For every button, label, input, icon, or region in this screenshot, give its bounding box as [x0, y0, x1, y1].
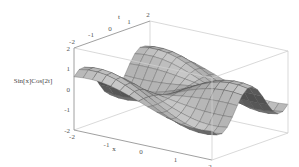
surface-plot: -2-1012-2-1012-2-1012 x t Sin[x]Cos[2t] — [0, 0, 299, 167]
box-edge — [74, 130, 212, 160]
z-tick-label: -1 — [64, 106, 70, 114]
t-tick-label: -2 — [69, 38, 75, 46]
z-tick-label: 2 — [67, 45, 71, 53]
x-tick-label: 0 — [139, 148, 143, 156]
z-tick-label: 0 — [67, 86, 71, 94]
t-tick-label: 0 — [108, 25, 112, 33]
z-tick-label: -2 — [64, 127, 70, 135]
t-tick-label: 2 — [146, 11, 150, 19]
t-axis-label: t — [118, 13, 120, 21]
z-tick-label: 1 — [67, 65, 71, 73]
x-tick-label: -1 — [104, 141, 110, 149]
box-edge — [150, 21, 288, 51]
box-edge — [212, 51, 288, 78]
z-axis-label: Sin[x]Cos[2t] — [14, 77, 53, 85]
box-edge — [74, 103, 150, 130]
x-tick-label: 1 — [174, 156, 178, 164]
t-tick-label: 1 — [127, 18, 131, 26]
surface — [74, 46, 288, 135]
x-tick-label: 2 — [208, 163, 212, 167]
x-tick-label: -2 — [69, 133, 75, 141]
box-edge — [212, 133, 288, 160]
x-axis-label: x — [112, 145, 116, 153]
box-edge — [74, 21, 150, 48]
t-tick-label: -1 — [88, 31, 94, 39]
